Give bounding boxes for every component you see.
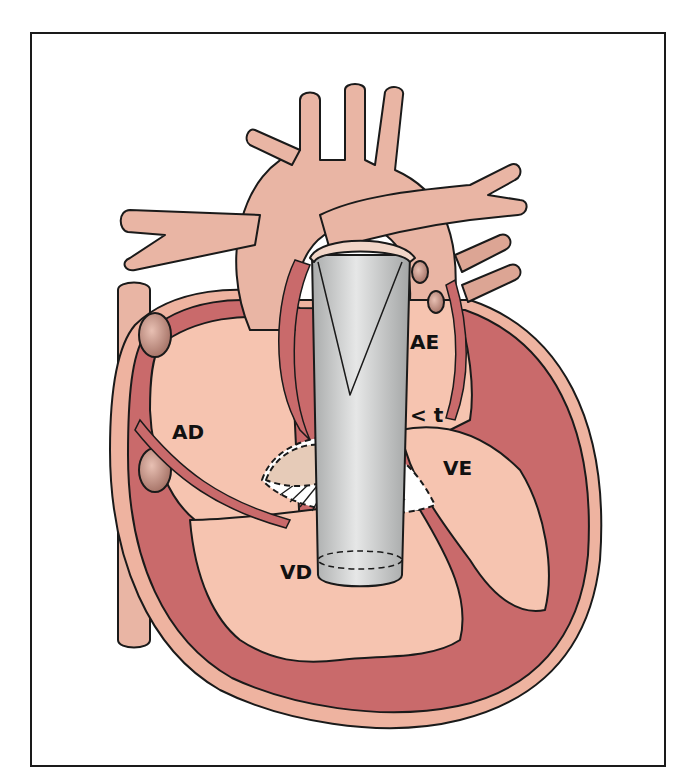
pv-opening-1 [412, 261, 428, 283]
pv-opening-2 [428, 291, 444, 313]
label-left-ventricle: VE [443, 458, 472, 478]
heart-illustration [0, 0, 690, 783]
pulmonary-vein-2 [462, 265, 520, 302]
catheter-tube [312, 255, 410, 586]
pulmonary-vein-1 [455, 235, 510, 272]
brachio-branch [247, 130, 300, 165]
svc-opening [139, 313, 171, 357]
label-right-atrium: AD [172, 422, 204, 442]
label-right-ventricle: VD [280, 562, 312, 582]
label-left-atrium: AE [410, 332, 439, 352]
label-marker-t: < t [410, 405, 443, 425]
